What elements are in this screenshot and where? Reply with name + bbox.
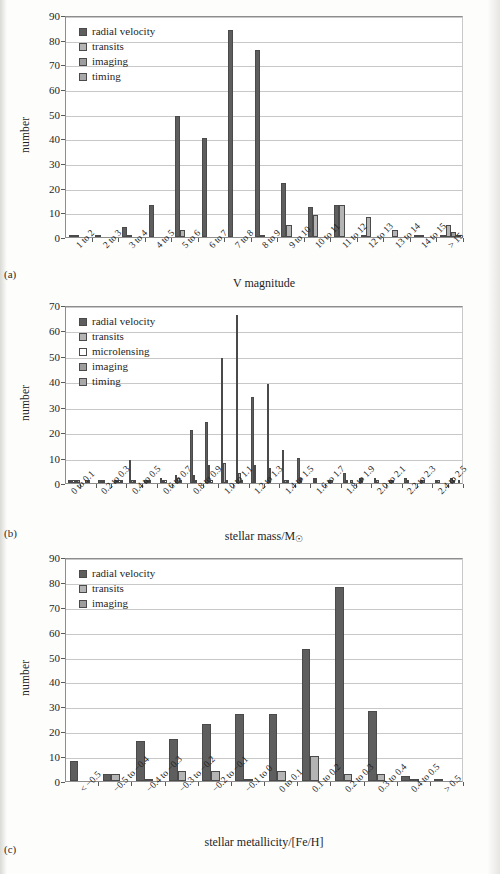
legend-label: timing: [92, 71, 121, 82]
gridline: [66, 659, 462, 660]
panel-label-a: (a): [4, 268, 16, 280]
bar: [180, 230, 185, 237]
gridline: [66, 190, 462, 191]
y-axis-tick-label: 10: [38, 453, 60, 465]
bar: [434, 779, 443, 781]
x-axis-title: stellar metallicity/[Fe/H]: [65, 835, 463, 850]
chart-legend: radial velocitytransitsimagingtiming: [79, 24, 155, 84]
legend-swatch-icon: [79, 585, 87, 593]
legend-item: microlensing: [79, 344, 155, 359]
x-axis-tick-mark: [187, 484, 188, 488]
bar: [282, 450, 284, 483]
gridline: [66, 214, 462, 215]
y-axis-tick-mark: [61, 682, 65, 683]
x-axis-tick-mark: [432, 484, 433, 488]
legend-item: timing: [79, 69, 155, 84]
bar: [254, 465, 256, 483]
legend-label: timing: [92, 376, 121, 387]
y-axis-tick-mark: [61, 306, 65, 307]
chart-legend: radial velocitytransitsmicrolensingimagi…: [79, 314, 155, 389]
legend-label: transits: [92, 331, 124, 342]
x-axis-tick-mark: [218, 484, 219, 488]
y-axis-tick-mark: [61, 41, 65, 42]
legend-item: radial velocity: [79, 24, 155, 39]
bar: [175, 116, 180, 237]
bar: [407, 480, 409, 483]
y-axis-tick-mark: [61, 583, 65, 584]
x-axis-tick-mark: [297, 782, 298, 786]
legend-label: microlensing: [92, 346, 149, 357]
bar: [437, 480, 439, 483]
y-axis-tick-label: 20: [38, 183, 60, 195]
y-axis-tick-mark: [61, 139, 65, 140]
bar: [401, 776, 410, 781]
x-axis-tick-mark: [341, 484, 342, 488]
x-axis-tick-mark: [371, 484, 372, 488]
bar: [103, 774, 112, 781]
gridline: [66, 733, 462, 734]
bar: [315, 478, 317, 483]
y-axis-title: number: [19, 101, 31, 153]
y-axis-title: number: [19, 369, 31, 421]
chart-legend: radial velocitytransitsimaging: [79, 566, 155, 611]
legend-item: transits: [79, 329, 155, 344]
y-axis-tick-label: 0: [38, 478, 60, 490]
x-axis-tick-mark: [96, 484, 97, 488]
gridline: [66, 634, 462, 635]
gridline: [66, 559, 462, 560]
y-axis-tick-label: 20: [38, 427, 60, 439]
legend-swatch-icon: [79, 73, 87, 81]
legend-swatch-icon: [79, 333, 87, 341]
legend-swatch-icon: [79, 600, 87, 608]
bar: [313, 215, 318, 237]
y-axis-tick-label: 0: [38, 776, 60, 788]
gridline: [66, 91, 462, 92]
bar: [202, 138, 207, 237]
x-axis-tick-mark: [310, 484, 311, 488]
y-axis-tick-label: 30: [38, 701, 60, 713]
legend-swatch-icon: [79, 378, 87, 386]
gridline: [66, 708, 462, 709]
legend-item: imaging: [79, 596, 155, 611]
y-axis-tick-mark: [61, 238, 65, 239]
legend-swatch-icon: [79, 28, 87, 36]
x-axis-tick-mark: [402, 484, 403, 488]
bar: [255, 50, 260, 237]
y-axis-tick-label: 30: [38, 158, 60, 170]
y-axis-tick-label: 0: [38, 232, 60, 244]
legend-swatch-icon: [79, 570, 87, 578]
legend-label: imaging: [92, 598, 128, 609]
x-axis-tick-mark: [364, 782, 365, 786]
page-edge-left: [0, 0, 7, 874]
y-axis-tick-label: 50: [38, 351, 60, 363]
y-axis-tick-label: 70: [38, 59, 60, 71]
gridline: [66, 434, 462, 435]
y-axis-tick-label: 80: [38, 577, 60, 589]
y-axis-tick-label: 60: [38, 627, 60, 639]
chart-panel-a: 0102030405060708090number1 to 22 to 33 t…: [8, 10, 478, 295]
x-axis-tick-mark: [98, 782, 99, 786]
x-axis-tick-mark: [279, 484, 280, 488]
legend-label: imaging: [92, 361, 128, 372]
x-axis-tick-mark: [157, 484, 158, 488]
y-axis-tick-label: 70: [38, 602, 60, 614]
y-axis-tick-label: 40: [38, 133, 60, 145]
legend-item: imaging: [79, 54, 155, 69]
y-axis-tick-mark: [61, 115, 65, 116]
x-axis-tick-mark: [430, 782, 431, 786]
y-axis-tick-label: 20: [38, 726, 60, 738]
y-axis-tick-mark: [61, 382, 65, 383]
bar: [70, 761, 79, 781]
y-axis-tick-mark: [61, 357, 65, 358]
x-axis-tick-mark: [231, 782, 232, 786]
y-axis-tick-mark: [61, 782, 65, 783]
y-axis-tick-mark: [61, 732, 65, 733]
x-axis-tick-mark: [165, 782, 166, 786]
y-axis-tick-mark: [61, 90, 65, 91]
page-edge-right: [482, 0, 500, 874]
y-axis-tick-mark: [61, 16, 65, 17]
legend-item: radial velocity: [79, 314, 155, 329]
y-axis-tick-label: 50: [38, 652, 60, 664]
bar: [346, 480, 348, 483]
legend-swatch-icon: [79, 348, 87, 356]
